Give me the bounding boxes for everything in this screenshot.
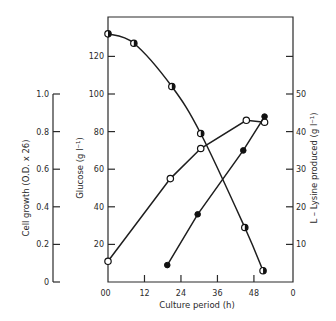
cell-growth-tick-label: 0.4 [36, 203, 49, 212]
glucose-tick-label: 60 [94, 165, 104, 174]
lysine-tick-label: 20 [296, 203, 306, 212]
glucose-tick-label: 20 [94, 240, 104, 249]
cell-growth-tick-label: 0.6 [36, 165, 49, 174]
filled-circle-marker [195, 212, 201, 218]
x-tick-label: 24 [176, 289, 186, 298]
lysine-tick-label: 30 [296, 165, 306, 174]
series-cell-growth [105, 117, 268, 264]
lysine-tick-label: 50 [296, 90, 306, 99]
cell-growth-tick-label: 1.0 [36, 90, 49, 99]
x-tick-label: 48 [249, 289, 259, 298]
filled-circle-marker [240, 148, 246, 154]
chart: 00.20.40.60.81.0 Cell growth (O.D. x 26)… [0, 0, 336, 321]
series-line [108, 120, 265, 261]
cell-growth-tick-label: 0.2 [36, 240, 49, 249]
x-axis-title: Culture period (h) [159, 300, 234, 310]
lysine-tick-label: 10 [296, 240, 306, 249]
glucose-tick-label: 80 [94, 128, 104, 137]
x-tick-label: 12 [139, 289, 149, 298]
filled-circle-marker [164, 262, 170, 268]
open-circle-marker [105, 258, 111, 264]
open-circle-marker [167, 175, 173, 181]
series-layer [105, 31, 268, 274]
cell-growth-axis: 00.20.40.60.81.0 Cell growth (O.D. x 26) [21, 90, 60, 287]
glucose-tick-label: 120 [89, 52, 104, 61]
x-axis-right-end-label: 0 [290, 289, 295, 298]
cell-growth-axis-title: Cell growth (O.D. x 26) [21, 139, 31, 236]
cell-growth-tick-label: 0.8 [36, 128, 49, 137]
glucose-tick-label: 40 [94, 203, 104, 212]
filled-circle-marker [262, 114, 268, 120]
open-circle-marker [198, 145, 204, 151]
lysine-axis-title: L – Lysine produced (g l⁻¹) [309, 112, 319, 223]
glucose-axis-title: Glucose (g l⁻¹) [75, 137, 85, 199]
x-tick-label: 36 [212, 289, 222, 298]
x-axis: 012243648 0 Culture period (h) [105, 275, 295, 310]
x-tick-label: 0 [105, 289, 110, 298]
cell-growth-tick-label: 0 [44, 278, 49, 287]
lysine-tick-label: 40 [296, 128, 306, 137]
lysine-axis: 1020304050 L – Lysine produced (g l⁻¹) [286, 56, 319, 249]
open-circle-marker [243, 117, 249, 123]
glucose-tick-label: 100 [89, 90, 104, 99]
